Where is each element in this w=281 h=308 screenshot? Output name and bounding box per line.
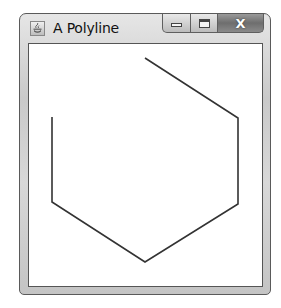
polyline-canvas	[0, 0, 281, 308]
polyline-shape	[52, 58, 238, 262]
